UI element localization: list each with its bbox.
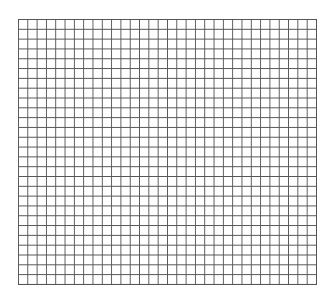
graph-paper-grid [18,19,317,285]
